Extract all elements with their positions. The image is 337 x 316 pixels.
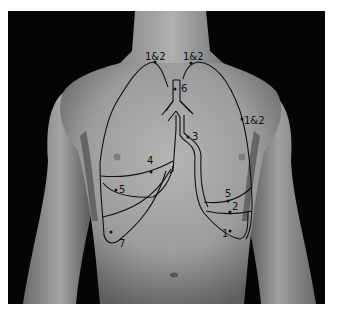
navel [170, 273, 178, 278]
label-left-lower-upper: 5 [225, 188, 231, 199]
label-right-apex: 1&2 [145, 51, 166, 62]
label-right-base: 7 [119, 238, 125, 249]
chest-illustration: 1&2 1&2 1&2 6 3 4 5 7 5 2 1 [8, 11, 325, 304]
left-nipple [239, 154, 246, 161]
chest-photo-figure: 1&2 1&2 1&2 6 3 4 5 7 5 2 1 [8, 11, 325, 304]
label-left-lateral: 1&2 [244, 115, 265, 126]
label-left-apex: 1&2 [183, 51, 204, 62]
label-left-base: 1 [222, 228, 228, 239]
right-nipple [114, 154, 121, 161]
label-right-lower-lateral: 5 [119, 184, 125, 195]
label-left-lower-mid: 2 [232, 201, 238, 212]
label-left-main-bronchus: 3 [192, 131, 198, 142]
neck [120, 11, 223, 63]
label-trachea: 6 [181, 83, 187, 94]
label-right-horizontal-fissure: 4 [147, 155, 153, 166]
